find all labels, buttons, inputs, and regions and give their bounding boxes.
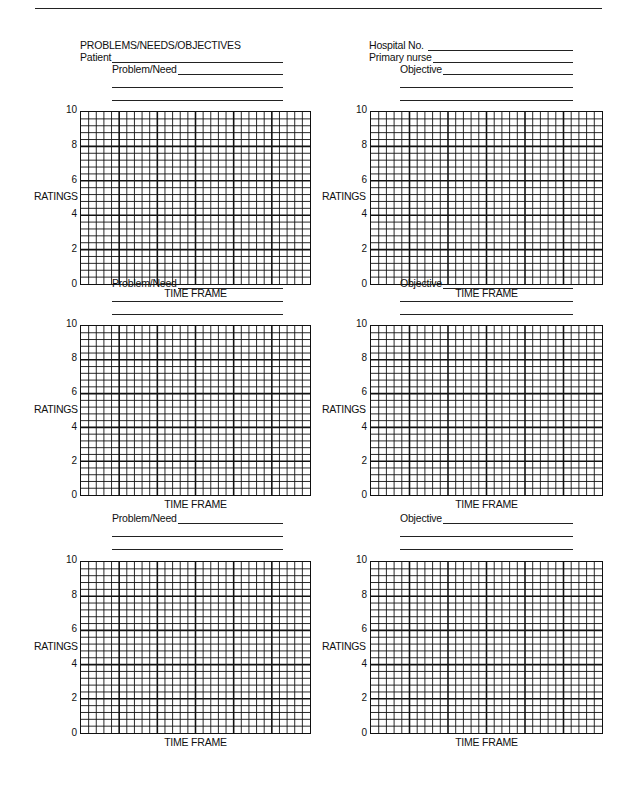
blank-line-2[interactable] <box>400 100 573 101</box>
y-tick-label: 4 <box>63 659 77 669</box>
problem-need-label: Problem/Need <box>112 63 177 75</box>
patient-label: Patient <box>80 51 111 63</box>
problem-need-input[interactable] <box>178 513 283 524</box>
objective-label: Objective <box>400 63 442 75</box>
problem-need-input[interactable] <box>178 278 283 289</box>
objective-field[interactable]: Objective <box>400 63 573 75</box>
y-tick-label: 10 <box>353 555 367 565</box>
y-tick-label: 6 <box>63 175 77 185</box>
blank-line-1[interactable] <box>112 87 283 88</box>
objective-label: Objective <box>400 512 442 524</box>
problem-need-label: Problem/Need <box>112 277 177 289</box>
ratings-axis-label: RATINGS <box>322 640 366 652</box>
y-tick-label: 0 <box>353 279 367 289</box>
y-tick-label: 10 <box>63 105 77 115</box>
rating-grid[interactable] <box>370 111 603 285</box>
y-tick-label: 4 <box>63 422 77 432</box>
y-tick-label: 0 <box>63 728 77 738</box>
y-tick-label: 8 <box>353 590 367 600</box>
objective-field[interactable]: Objective <box>400 512 573 524</box>
y-tick-label: 10 <box>353 319 367 329</box>
objective-input[interactable] <box>443 513 573 524</box>
y-tick-label: 2 <box>63 693 77 703</box>
time-frame-axis-label: TIME FRAME <box>370 498 603 510</box>
problem-need-field[interactable]: Problem/Need <box>112 63 283 75</box>
rating-grid[interactable] <box>80 111 311 285</box>
y-tick-label: 10 <box>63 555 77 565</box>
blank-line-2[interactable] <box>112 314 283 315</box>
objective-label: Objective <box>400 277 442 289</box>
y-tick-label: 8 <box>63 590 77 600</box>
y-tick-label: 6 <box>353 624 367 634</box>
blank-line-1[interactable] <box>400 536 573 537</box>
primary-nurse-input[interactable] <box>433 52 573 63</box>
blank-line-2[interactable] <box>112 549 283 550</box>
y-tick-label: 10 <box>353 105 367 115</box>
blank-line-1[interactable] <box>400 301 573 302</box>
y-tick-label: 4 <box>63 209 77 219</box>
y-tick-label: 8 <box>353 140 367 150</box>
objective-input[interactable] <box>443 278 573 289</box>
y-tick-label: 10 <box>63 319 77 329</box>
y-tick-label: 8 <box>353 353 367 363</box>
ratings-axis-label: RATINGS <box>322 403 366 415</box>
problem-need-label: Problem/Need <box>112 512 177 524</box>
problem-need-input[interactable] <box>178 64 283 75</box>
ratings-axis-label: RATINGS <box>34 190 78 202</box>
objective-input[interactable] <box>443 64 573 75</box>
primary-nurse-label: Primary nurse <box>369 51 432 63</box>
rating-grid[interactable] <box>80 325 311 496</box>
y-tick-label: 2 <box>63 244 77 254</box>
y-tick-label: 4 <box>353 659 367 669</box>
form-title: PROBLEMS/NEEDS/OBJECTIVES <box>80 39 241 51</box>
y-tick-label: 4 <box>353 209 367 219</box>
ratings-axis-label: RATINGS <box>322 190 366 202</box>
y-tick-label: 0 <box>353 490 367 500</box>
blank-line-1[interactable] <box>112 536 283 537</box>
primary-nurse-field[interactable]: Primary nurse <box>369 51 573 63</box>
ratings-axis-label: RATINGS <box>34 640 78 652</box>
top-rule <box>35 8 602 9</box>
blank-line-1[interactable] <box>400 87 573 88</box>
objective-field[interactable]: Objective <box>400 277 573 289</box>
patient-input[interactable] <box>112 52 283 63</box>
blank-line-2[interactable] <box>400 314 573 315</box>
patient-field[interactable]: Patient <box>80 51 283 63</box>
y-tick-label: 6 <box>353 387 367 397</box>
problem-need-field[interactable]: Problem/Need <box>112 277 283 289</box>
time-frame-axis-label: TIME FRAME <box>370 736 603 748</box>
y-tick-label: 8 <box>63 353 77 363</box>
hospital-no-input[interactable] <box>428 40 573 51</box>
y-tick-label: 0 <box>63 279 77 289</box>
rating-grid[interactable] <box>370 325 603 496</box>
hospital-no-label: Hospital No. <box>369 39 424 51</box>
blank-line-1[interactable] <box>112 301 283 302</box>
blank-line-2[interactable] <box>400 549 573 550</box>
y-tick-label: 2 <box>353 456 367 466</box>
y-tick-label: 2 <box>63 456 77 466</box>
y-tick-label: 2 <box>353 693 367 703</box>
blank-line-2[interactable] <box>112 100 283 101</box>
y-tick-label: 0 <box>63 490 77 500</box>
y-tick-label: 4 <box>353 422 367 432</box>
time-frame-axis-label: TIME FRAME <box>80 736 311 748</box>
ratings-axis-label: RATINGS <box>34 403 78 415</box>
y-tick-label: 8 <box>63 140 77 150</box>
rating-grid[interactable] <box>370 561 603 734</box>
rating-grid[interactable] <box>80 561 311 734</box>
y-tick-label: 6 <box>63 387 77 397</box>
y-tick-label: 2 <box>353 244 367 254</box>
y-tick-label: 6 <box>353 175 367 185</box>
hospital-no-field[interactable]: Hospital No. <box>369 39 573 51</box>
y-tick-label: 0 <box>353 728 367 738</box>
y-tick-label: 6 <box>63 624 77 634</box>
time-frame-axis-label: TIME FRAME <box>80 498 311 510</box>
problem-need-field[interactable]: Problem/Need <box>112 512 283 524</box>
